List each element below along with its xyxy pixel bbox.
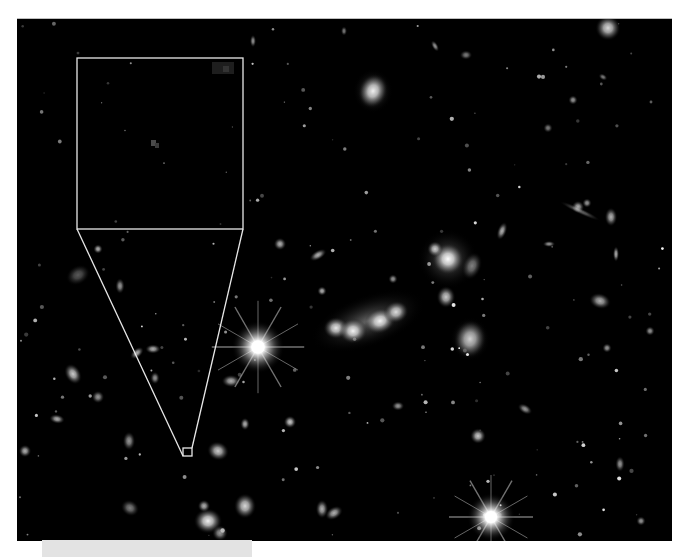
faint-source [658, 267, 660, 269]
galaxy [388, 274, 398, 284]
faint-source [424, 360, 425, 361]
galaxy [284, 416, 297, 429]
galaxy [339, 318, 368, 344]
faint-source [421, 345, 425, 349]
faint-source [179, 396, 183, 400]
faint-source [630, 52, 632, 54]
faint-source [53, 377, 56, 380]
faint-source [475, 399, 478, 402]
faint-source [183, 475, 187, 479]
faint-source [465, 144, 469, 148]
faint-source [301, 88, 305, 92]
faint-source [590, 461, 593, 464]
faint-source [303, 124, 306, 127]
faint-source [287, 63, 289, 65]
faint-source [618, 23, 620, 25]
faint-source [417, 137, 420, 140]
galaxy [212, 525, 228, 541]
faint-source [600, 83, 603, 86]
faint-source [528, 275, 532, 279]
faint-source [27, 534, 29, 536]
faint-source [127, 231, 129, 233]
galaxy [150, 372, 160, 385]
faint-source [452, 303, 456, 307]
faint-source [536, 474, 538, 476]
galaxy [198, 500, 211, 513]
faint-source [367, 422, 369, 424]
faint-source [519, 513, 520, 514]
faint-source [636, 514, 637, 515]
faint-source [89, 394, 92, 397]
faint-source [213, 301, 215, 303]
faint-source [451, 347, 455, 351]
faint-source [309, 305, 312, 308]
faint-source [440, 230, 443, 233]
galaxy [568, 95, 578, 105]
faint-source [602, 508, 605, 511]
faint-source [582, 443, 586, 447]
faint-source [348, 412, 350, 414]
galaxy [429, 39, 441, 53]
faint-source [648, 312, 651, 315]
galaxy [62, 260, 94, 289]
faint-source [458, 347, 460, 349]
faint-source [380, 418, 384, 422]
galaxies-layer [19, 19, 655, 541]
faint-source [20, 340, 22, 342]
faint-source [450, 117, 454, 121]
faint-source [272, 28, 274, 30]
galaxy [543, 123, 553, 133]
faint-source [644, 434, 647, 437]
faint-source [226, 172, 227, 173]
faint-source [77, 52, 80, 55]
faint-source [43, 92, 44, 93]
faint-source [551, 246, 553, 248]
faint-source [220, 528, 224, 532]
faint-source [21, 25, 24, 28]
faint-source [78, 348, 81, 351]
faint-source [463, 349, 467, 353]
faint-source [155, 313, 156, 314]
faint-source [282, 429, 285, 432]
faint-source [310, 245, 311, 246]
faint-source [484, 279, 485, 280]
faint-source [506, 372, 510, 376]
galaxy [123, 431, 136, 450]
faint-source [578, 532, 582, 536]
galaxy [317, 286, 327, 296]
faint-source [271, 277, 273, 279]
faint-source [615, 369, 619, 373]
faint-source [332, 139, 333, 140]
faint-source [35, 414, 38, 417]
faint-source [269, 298, 273, 302]
galaxy [240, 418, 250, 431]
faint-source [617, 477, 621, 481]
faint-source [283, 278, 286, 281]
faint-source [479, 430, 480, 431]
galaxy [615, 456, 625, 472]
galaxy [341, 26, 347, 36]
faint-source [552, 49, 555, 52]
faint-source [19, 496, 21, 498]
faint-source [294, 467, 298, 471]
faint-source [482, 314, 485, 317]
faint-source [331, 249, 335, 253]
faint-source [582, 441, 584, 443]
faint-source [615, 124, 618, 127]
galaxy [605, 207, 618, 226]
faint-source [38, 455, 40, 457]
faint-source [468, 168, 471, 171]
galaxy [427, 241, 443, 257]
galaxy [115, 278, 125, 294]
faint-source [163, 162, 165, 164]
faint-source [114, 220, 117, 223]
faint-source [621, 284, 623, 286]
galaxy [460, 50, 473, 60]
faint-source [474, 221, 477, 224]
faint-source [107, 82, 110, 85]
faint-source [397, 512, 399, 514]
galaxy [60, 360, 85, 387]
faint-source [242, 381, 245, 384]
galaxy [274, 238, 287, 251]
galaxy [392, 401, 405, 411]
